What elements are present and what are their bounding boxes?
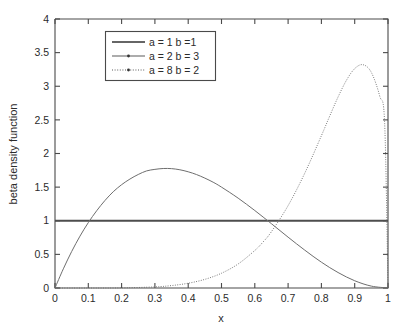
y-tick-label: 2.5: [34, 114, 49, 126]
y-tick-label: 0.5: [34, 248, 49, 260]
y-tick-label: 1: [43, 214, 49, 226]
legend-label-2: a = 8 b = 2: [149, 64, 199, 76]
beta-density-figure: 00.10.20.30.40.50.60.70.80.91 00.511.522…: [0, 0, 408, 333]
x-tick-label: 0.9: [347, 292, 362, 304]
y-axis-title: beta density function: [7, 104, 19, 205]
x-tick-label: 0.3: [148, 292, 163, 304]
x-tick-label: 0.8: [314, 292, 329, 304]
legend-marker-dot: [127, 55, 130, 58]
y-tick-label: 0: [43, 282, 49, 294]
x-tick-label: 1: [385, 292, 391, 304]
x-axis-title: x: [218, 312, 224, 324]
legend-marker-dot-2: [127, 69, 130, 72]
y-tick-label: 3.5: [34, 46, 49, 58]
beta-density-chart: 00.10.20.30.40.50.60.70.80.91 00.511.522…: [0, 0, 408, 333]
legend-label-0: a = 1 b =1: [149, 36, 196, 48]
x-tick-label: 0.6: [247, 292, 262, 304]
y-tick-label: 4: [43, 13, 49, 25]
x-tick-label: 0.4: [181, 292, 196, 304]
x-tick-label: 0: [52, 292, 58, 304]
y-tick-label: 1.5: [34, 181, 49, 193]
x-tick-label: 0.5: [214, 292, 229, 304]
x-tick-label: 0.1: [81, 292, 96, 304]
legend-label-1: a = 2 b = 3: [149, 50, 199, 62]
x-tick-label: 0.2: [114, 292, 129, 304]
legend[interactable]: a = 1 b =1 a = 2 b = 3 a = 8 b = 2: [106, 32, 216, 81]
x-tick-label: 0.7: [281, 292, 296, 304]
y-tick-label: 3: [43, 80, 49, 92]
y-tick-label: 2: [43, 147, 49, 159]
